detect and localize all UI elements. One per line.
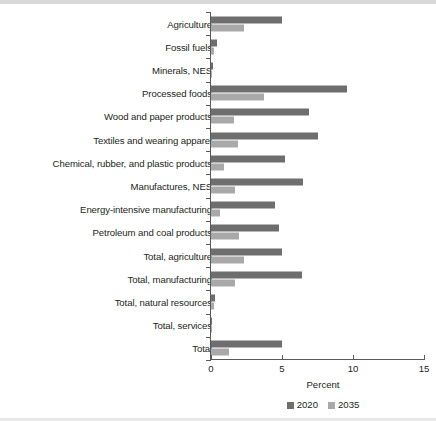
bar-2020-total-agriculture — [211, 248, 282, 255]
y-tick — [206, 12, 211, 13]
bar-group — [211, 108, 431, 125]
page-edge-band-top — [0, 0, 436, 4]
category-label: Textiles and wearing apparel — [93, 134, 212, 145]
bar-row: Total — [0, 337, 436, 360]
y-tick — [206, 82, 211, 83]
chart-legend: 20202035 — [0, 398, 436, 410]
bar-group — [211, 340, 431, 357]
bar-row: Total, natural resources — [0, 290, 436, 313]
legend-swatch-icon — [287, 402, 294, 409]
x-tick-label: 10 — [348, 363, 359, 375]
plot-area: AgricultureFossil fuelsMinerals, NESProc… — [0, 12, 436, 360]
bar-group — [211, 317, 431, 334]
y-tick — [206, 360, 211, 361]
x-tick — [211, 355, 212, 360]
category-label: Minerals, NES — [152, 64, 212, 75]
bar-row: Petroleum and coal products — [0, 221, 436, 244]
x-axis-title-label: Percent — [306, 379, 339, 390]
bar-group — [211, 131, 431, 148]
bar-2020-energy-intensive-manufacturing — [211, 202, 275, 209]
bar-2020-total-services — [211, 318, 212, 325]
category-label: Fossil fuels — [165, 41, 212, 52]
bar-group — [211, 177, 431, 194]
bar-row: Manufactures, NES — [0, 174, 436, 197]
category-label: Manufactures, NES — [131, 180, 212, 191]
bar-2020-total-natural-resources — [211, 294, 215, 301]
bar-2035-agriculture — [211, 24, 244, 31]
y-tick — [206, 58, 211, 59]
y-tick — [206, 244, 211, 245]
x-tick-label: 0 — [208, 363, 213, 375]
bar-2020-minerals-nes — [211, 62, 213, 69]
bar-group — [211, 61, 431, 78]
bar-2035-fossil-fuels — [211, 47, 214, 54]
bar-row: Total, services — [0, 314, 436, 337]
bar-2020-processed-foods — [211, 86, 347, 93]
bar-row: Minerals, NES — [0, 58, 436, 81]
y-tick — [206, 198, 211, 199]
y-tick — [206, 151, 211, 152]
category-label: Total, manufacturing — [128, 273, 212, 284]
category-label: Chemical, rubber, and plastic products — [53, 157, 212, 168]
bar-group — [211, 85, 431, 102]
category-label: Energy-intensive manufacturing — [80, 204, 212, 215]
bar-2020-textiles-and-wearing-apparel — [211, 132, 318, 139]
bar-row: Fossil fuels — [0, 35, 436, 58]
bar-2035-chemical-rubber-and-plastic-products — [211, 163, 224, 170]
legend-item-2020[interactable]: 2020 — [287, 399, 318, 410]
bar-2020-manufactures-nes — [211, 178, 303, 185]
bar-group — [211, 15, 431, 32]
y-tick — [206, 105, 211, 106]
bar-2020-total-manufacturing — [211, 271, 302, 278]
bar-2020-petroleum-and-coal-products — [211, 225, 279, 232]
bar-2035-petroleum-and-coal-products — [211, 233, 239, 240]
bar-chart: AgricultureFossil fuelsMinerals, NESProc… — [0, 0, 436, 421]
x-tick-label: 15 — [419, 363, 430, 375]
bar-2035-processed-foods — [211, 94, 264, 101]
y-tick — [206, 267, 211, 268]
legend-label: 2020 — [297, 399, 318, 410]
legend-label: 2035 — [338, 399, 359, 410]
y-tick — [206, 337, 211, 338]
bar-group — [211, 224, 431, 241]
x-tick — [353, 355, 354, 360]
category-label: Total, services — [153, 320, 212, 331]
bar-row: Wood and paper products — [0, 105, 436, 128]
bar-group — [211, 38, 431, 55]
bar-2020-total — [211, 341, 282, 348]
y-tick — [206, 221, 211, 222]
y-axis-line — [210, 12, 211, 360]
bar-row: Chemical, rubber, and plastic products — [0, 151, 436, 174]
category-label: Agriculture — [167, 18, 212, 29]
x-tick — [424, 355, 425, 360]
bar-2035-total-services — [211, 326, 212, 333]
bar-row: Textiles and wearing apparel — [0, 128, 436, 151]
bar-2035-manufactures-nes — [211, 186, 235, 193]
bar-2035-total-natural-resources — [211, 302, 214, 309]
category-label: Petroleum and coal products — [93, 227, 212, 238]
category-label: Processed foods — [142, 88, 212, 99]
bar-row: Processed foods — [0, 82, 436, 105]
x-tick-label: 5 — [279, 363, 284, 375]
y-tick — [206, 174, 211, 175]
bar-2035-minerals-nes — [211, 70, 212, 77]
y-tick — [206, 314, 211, 315]
bar-2035-total — [211, 349, 229, 356]
bar-2035-textiles-and-wearing-apparel — [211, 140, 238, 147]
legend-item-2035[interactable]: 2035 — [328, 399, 359, 410]
category-label: Total, natural resources — [115, 296, 212, 307]
x-tick — [282, 355, 283, 360]
bar-2020-chemical-rubber-and-plastic-products — [211, 155, 285, 162]
bar-2020-fossil-fuels — [211, 39, 217, 46]
bar-2035-total-agriculture — [211, 256, 244, 263]
bar-2035-energy-intensive-manufacturing — [211, 210, 220, 217]
x-axis-line — [210, 359, 424, 360]
bar-2020-wood-and-paper-products — [211, 109, 309, 116]
y-tick — [206, 290, 211, 291]
bar-group — [211, 154, 431, 171]
y-tick — [206, 128, 211, 129]
category-label: Total, agriculture — [143, 250, 212, 261]
x-axis-title: Percent — [0, 379, 436, 390]
bar-group — [211, 293, 431, 310]
category-label: Wood and paper products — [104, 111, 212, 122]
